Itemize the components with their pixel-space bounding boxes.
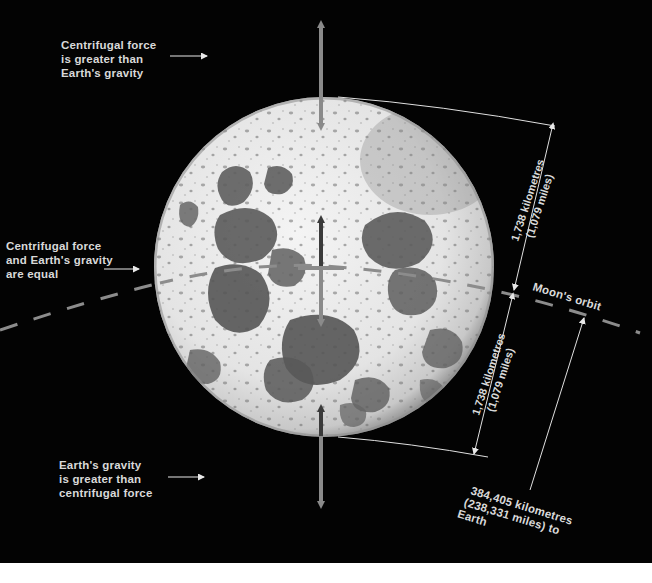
label-earth-distance: 384,405 kilometres (238,331 miles) to Ea… bbox=[456, 483, 577, 553]
earth-distance-pointer bbox=[530, 318, 584, 490]
label-centrifugal-greater: Centrifugal force is greater than Earth'… bbox=[61, 39, 160, 79]
label-radius-lower: 1,738 kilometres (1,079 miles) bbox=[469, 329, 520, 421]
label-moons-orbit: Moon's orbit bbox=[531, 280, 602, 312]
label-forces-equal: Centrifugal force and Earth's gravity ar… bbox=[6, 240, 116, 280]
diagram-canvas: Centrifugal force is greater than Earth'… bbox=[0, 0, 652, 563]
bottom-page-margin bbox=[0, 563, 652, 583]
label-gravity-greater: Earth's gravity is greater than centrifu… bbox=[59, 459, 153, 499]
moon-orbit-path-left bbox=[0, 283, 160, 330]
moon-tidal-diagram: Centrifugal force is greater than Earth'… bbox=[0, 0, 652, 563]
label-radius-upper: 1,738 kilometres (1,079 miles) bbox=[508, 155, 559, 247]
